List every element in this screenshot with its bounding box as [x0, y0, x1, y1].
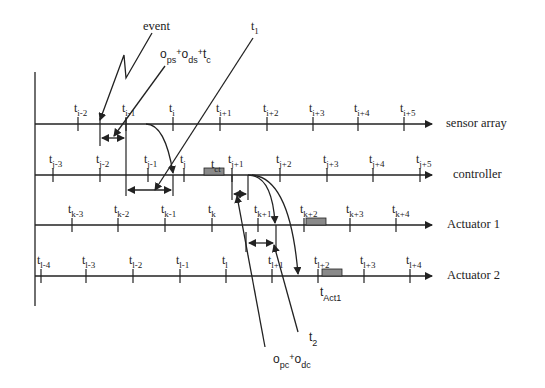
tick-label: ti+3 [309, 102, 324, 118]
actuator1-block [306, 218, 326, 225]
timing-diagram [0, 0, 545, 388]
tick-label: tl [222, 254, 228, 270]
tick-label: ti [169, 102, 175, 118]
tick-label: tl+3 [360, 254, 375, 270]
tick-label: tj+1 [228, 153, 243, 169]
tick-label: ti-1 [122, 102, 135, 118]
offset-controller-label: opc+odc [273, 353, 311, 370]
tick-label: tk-2 [114, 203, 129, 219]
tick-label: tj-1 [144, 153, 157, 169]
tick-label: tk [208, 203, 216, 219]
t2-label: t2 [309, 331, 317, 348]
controller-axis-label: controller [453, 168, 502, 181]
tick-label: tj-2 [96, 153, 109, 169]
tick-label: tj+5 [416, 153, 431, 169]
actuator1-axis-label: Actuator 1 [447, 218, 500, 231]
sensor-axis-label: sensor array [446, 117, 507, 130]
tick-label: tl-2 [129, 254, 142, 270]
tick-label: tk+1 [254, 203, 271, 219]
tick-label: ti+5 [400, 102, 415, 118]
tick-label: ti+2 [263, 102, 278, 118]
tick-label: tj-3 [49, 153, 62, 169]
actuator2-block [322, 269, 342, 276]
tick-label: tk+2 [300, 203, 317, 219]
tick-label: ti-2 [74, 102, 87, 118]
tick-label: tj [180, 153, 186, 169]
tick-label: tl-3 [82, 254, 95, 270]
tick-label: ti+1 [216, 102, 231, 118]
event-label: event [143, 20, 170, 33]
tick-label: tl-1 [176, 254, 189, 270]
offset-sensor-label: ops+ods+tc [160, 48, 211, 65]
tick-label: tl-4 [37, 254, 50, 270]
t1-label: t1 [251, 20, 259, 36]
tick-label: tj+4 [369, 153, 384, 169]
actuator2-axis-label: Actuator 2 [447, 269, 500, 282]
tct-label: tct [211, 158, 221, 174]
tick-label: tk-3 [68, 203, 83, 219]
tick-label: tl+1 [268, 254, 283, 270]
tick-label: tl+2 [314, 254, 329, 270]
tick-label: tj+3 [323, 153, 338, 169]
tick-label: tl+4 [406, 254, 421, 270]
tick-label: tj+2 [276, 153, 291, 169]
tick-label: tk-1 [161, 203, 176, 219]
tick-label: tk+3 [346, 203, 363, 219]
tick-label: ti+4 [354, 102, 369, 118]
tick-label: tk+4 [392, 203, 409, 219]
tact1-label: tAct1 [320, 286, 341, 303]
